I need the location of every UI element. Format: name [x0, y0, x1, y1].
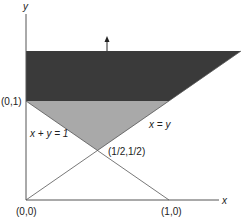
- point-label-origin: (0,0): [16, 206, 37, 217]
- point-label-0-1: (0,1): [1, 96, 22, 107]
- x-axis-label: x: [221, 195, 228, 206]
- dark-region: [26, 51, 241, 101]
- arrowhead-icon: [105, 36, 110, 42]
- point-label-1-0: (1,0): [161, 206, 182, 217]
- y-axis-label: y: [22, 1, 29, 12]
- line-label-x-equals-y: x = y: [148, 119, 171, 130]
- point-label-intersection: (1/2,1/2): [108, 146, 145, 157]
- gray-region: [26, 101, 169, 151]
- line-label-x-plus-y: x + y = 1: [29, 128, 68, 139]
- diagram-canvas: y x (0,1) (0,0) (1,0) (1/2,1/2) x + y = …: [0, 0, 241, 220]
